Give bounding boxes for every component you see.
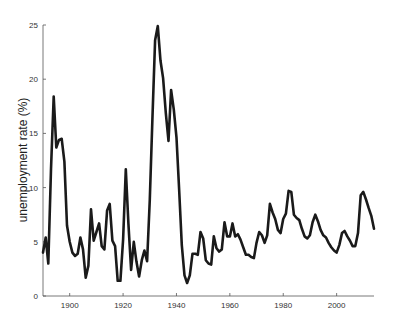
y-axis-label: unemployment rate (%) [16,98,30,223]
y-axis-ticks: 0510152025 [29,21,46,301]
y-tick-label: 10 [29,184,38,193]
y-tick-label: 25 [29,21,38,30]
unemployment-series-line [43,26,374,283]
x-tick-label: 1900 [61,301,79,310]
x-axis-ticks: 190019201940196019802000 [61,293,346,310]
x-tick-label: 2000 [328,301,346,310]
x-tick-label: 1920 [114,301,132,310]
unemployment-line-chart: 0510152025 190019201940196019802000 unem… [0,0,394,329]
x-tick-label: 1940 [168,301,186,310]
x-tick-label: 1960 [221,301,239,310]
x-tick-label: 1980 [274,301,292,310]
y-tick-label: 5 [34,238,39,247]
y-tick-label: 0 [34,292,39,301]
y-tick-label: 15 [29,129,38,138]
y-tick-label: 20 [29,75,38,84]
axes [43,25,374,296]
